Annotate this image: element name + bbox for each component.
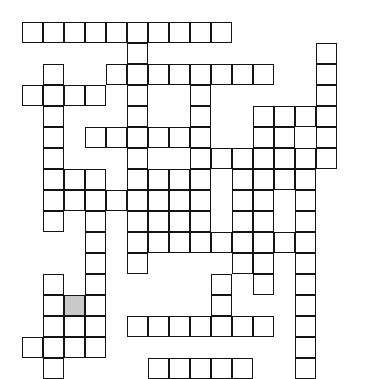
crossword-cell[interactable]	[148, 211, 169, 232]
crossword-cell[interactable]	[232, 211, 253, 232]
crossword-cell[interactable]	[85, 85, 106, 106]
crossword-cell[interactable]	[211, 64, 232, 85]
crossword-cell[interactable]	[295, 190, 316, 211]
crossword-cell[interactable]	[253, 274, 274, 295]
crossword-cell[interactable]	[253, 127, 274, 148]
crossword-cell[interactable]	[85, 190, 106, 211]
crossword-cell[interactable]	[253, 316, 274, 337]
crossword-cell[interactable]	[64, 190, 85, 211]
crossword-cell[interactable]	[85, 337, 106, 358]
crossword-cell[interactable]	[274, 232, 295, 253]
crossword-cell[interactable]	[295, 169, 316, 190]
crossword-cell[interactable]	[85, 169, 106, 190]
crossword-cell-shaded[interactable]	[64, 295, 85, 316]
crossword-cell[interactable]	[253, 169, 274, 190]
crossword-cell[interactable]	[274, 106, 295, 127]
crossword-cell[interactable]	[127, 316, 148, 337]
crossword-cell[interactable]	[295, 106, 316, 127]
crossword-cell[interactable]	[127, 106, 148, 127]
crossword-cell[interactable]	[43, 22, 64, 43]
crossword-cell[interactable]	[148, 316, 169, 337]
crossword-cell[interactable]	[85, 127, 106, 148]
crossword-cell[interactable]	[127, 253, 148, 274]
crossword-cell[interactable]	[127, 148, 148, 169]
crossword-cell[interactable]	[43, 337, 64, 358]
crossword-cell[interactable]	[64, 22, 85, 43]
crossword-cell[interactable]	[211, 316, 232, 337]
crossword-cell[interactable]	[316, 148, 337, 169]
crossword-cell[interactable]	[316, 64, 337, 85]
crossword-cell[interactable]	[43, 316, 64, 337]
crossword-cell[interactable]	[85, 274, 106, 295]
crossword-cell[interactable]	[232, 64, 253, 85]
crossword-cell[interactable]	[169, 358, 190, 379]
crossword-cell[interactable]	[43, 148, 64, 169]
crossword-cell[interactable]	[169, 64, 190, 85]
crossword-cell[interactable]	[232, 358, 253, 379]
crossword-cell[interactable]	[43, 169, 64, 190]
crossword-cell[interactable]	[106, 127, 127, 148]
crossword-cell[interactable]	[211, 22, 232, 43]
crossword-cell[interactable]	[190, 190, 211, 211]
crossword-cell[interactable]	[43, 295, 64, 316]
crossword-cell[interactable]	[169, 190, 190, 211]
crossword-cell[interactable]	[274, 127, 295, 148]
crossword-cell[interactable]	[169, 232, 190, 253]
crossword-cell[interactable]	[316, 85, 337, 106]
crossword-cell[interactable]	[316, 106, 337, 127]
crossword-cell[interactable]	[64, 316, 85, 337]
crossword-cell[interactable]	[85, 232, 106, 253]
crossword-cell[interactable]	[190, 64, 211, 85]
crossword-cell[interactable]	[190, 127, 211, 148]
crossword-cell[interactable]	[22, 337, 43, 358]
crossword-cell[interactable]	[127, 85, 148, 106]
crossword-cell[interactable]	[253, 211, 274, 232]
crossword-cell[interactable]	[232, 148, 253, 169]
crossword-cell[interactable]	[43, 127, 64, 148]
crossword-cell[interactable]	[295, 316, 316, 337]
crossword-cell[interactable]	[232, 190, 253, 211]
crossword-cell[interactable]	[22, 22, 43, 43]
crossword-cell[interactable]	[148, 22, 169, 43]
crossword-cell[interactable]	[64, 85, 85, 106]
crossword-cell[interactable]	[190, 358, 211, 379]
crossword-cell[interactable]	[127, 127, 148, 148]
crossword-cell[interactable]	[169, 22, 190, 43]
crossword-cell[interactable]	[148, 169, 169, 190]
crossword-cell[interactable]	[211, 295, 232, 316]
crossword-cell[interactable]	[43, 211, 64, 232]
crossword-cell[interactable]	[148, 64, 169, 85]
crossword-cell[interactable]	[295, 232, 316, 253]
crossword-cell[interactable]	[232, 253, 253, 274]
crossword-cell[interactable]	[127, 169, 148, 190]
crossword-cell[interactable]	[253, 232, 274, 253]
crossword-cell[interactable]	[127, 22, 148, 43]
crossword-cell[interactable]	[127, 64, 148, 85]
crossword-cell[interactable]	[148, 358, 169, 379]
crossword-cell[interactable]	[274, 148, 295, 169]
crossword-cell[interactable]	[232, 232, 253, 253]
crossword-cell[interactable]	[85, 22, 106, 43]
crossword-cell[interactable]	[127, 211, 148, 232]
crossword-cell[interactable]	[274, 169, 295, 190]
crossword-cell[interactable]	[127, 232, 148, 253]
crossword-cell[interactable]	[295, 358, 316, 379]
crossword-cell[interactable]	[85, 316, 106, 337]
crossword-cell[interactable]	[85, 253, 106, 274]
crossword-cell[interactable]	[43, 358, 64, 379]
crossword-cell[interactable]	[169, 169, 190, 190]
crossword-cell[interactable]	[190, 232, 211, 253]
crossword-cell[interactable]	[22, 85, 43, 106]
crossword-cell[interactable]	[169, 211, 190, 232]
crossword-cell[interactable]	[295, 274, 316, 295]
crossword-cell[interactable]	[43, 64, 64, 85]
crossword-cell[interactable]	[43, 274, 64, 295]
crossword-cell[interactable]	[64, 337, 85, 358]
crossword-cell[interactable]	[190, 316, 211, 337]
crossword-cell[interactable]	[316, 43, 337, 64]
crossword-cell[interactable]	[169, 316, 190, 337]
crossword-cell[interactable]	[190, 169, 211, 190]
crossword-cell[interactable]	[295, 148, 316, 169]
crossword-cell[interactable]	[295, 337, 316, 358]
